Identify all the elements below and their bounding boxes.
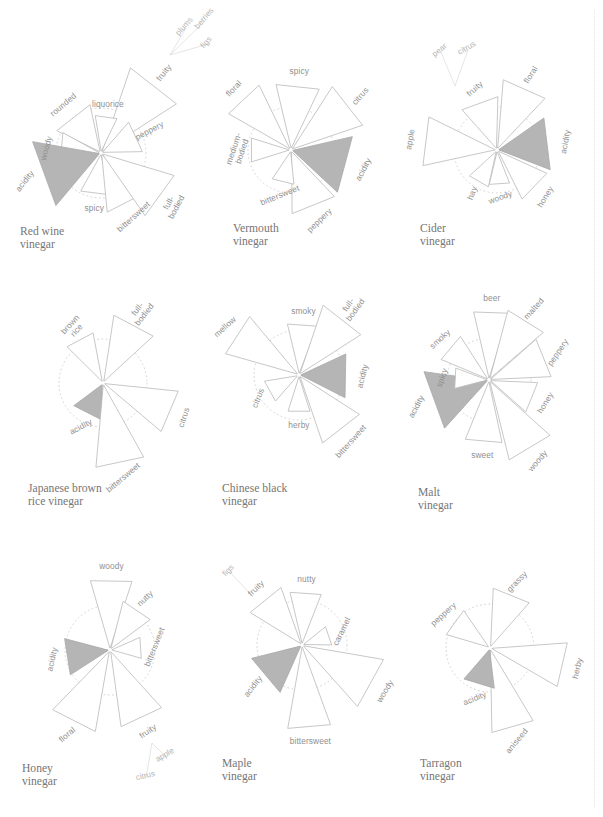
chart-panel-vermouth-vinegar: spicycitrusaciditypepperybittersweetmedi… [201,0,402,272]
petal-label: bittersweet [142,625,167,668]
figure-sheet: fruitypepperyliquoriceroundedwoodyacidit… [0,0,603,817]
petal-label: acidity [406,393,427,420]
chart-title: Malt vinegar [418,486,453,513]
petal-peppery [446,611,488,647]
sub-label-leader [441,52,455,86]
petal-acidity [464,650,494,688]
petal-label: acidity [353,156,374,183]
petal-label: citrus [176,406,192,429]
chart-title: Vermouth vinegar [233,222,279,249]
petal-acidity [74,385,102,420]
petal-label: spicy [85,203,105,213]
petal-label: rounded [48,90,79,118]
petal-fruity [111,652,162,727]
chart-panel-japanese-brown-rice-vinegar: full-bodiedbrownriceaciditybittersweetci… [0,272,201,544]
chart-panel-honey-vinegar: woodynuttybittersweetfruityfloralacidity… [0,544,201,817]
petal-caramel [304,627,332,645]
petal-label: fruity [154,62,174,83]
petal-label: caramel [330,616,352,648]
petal-label: woody [374,677,396,705]
petal-label: honey [535,183,556,209]
petal-label: peppery [305,205,335,234]
chart-panel-red-wine-vinegar: fruitypepperyliquoriceroundedwoodyacidit… [0,0,201,272]
petal-label: acidity [44,646,59,673]
chart-title: Maple vinegar [222,757,257,784]
petal-label: acidity [13,168,36,194]
petal-label: citrus [349,85,370,107]
petal-label: hay [465,184,480,201]
petal-label: full-bodied [337,291,367,323]
petal-label: citrus [249,386,266,409]
petal-label: fruity [464,78,485,98]
chart-panel-maple-vinegar: nuttycaramelwoodybittersweetacidityfruit… [201,544,402,817]
petal-label: woody [525,448,550,475]
petal-label: grassy [505,568,530,593]
petal-label: nutty [135,588,156,609]
petal-label: malted [521,295,546,321]
petal-label: mellow [212,314,239,340]
petal-label: floral [521,64,539,85]
petal-label: herby [570,656,585,680]
petal-label: woody [98,561,124,571]
petal-label: floral [223,78,243,98]
chart-panel-tarragon-vinegar: grassyherbyaniseedaciditypepperyTarragon… [402,544,603,817]
panel-grid: fruitypepperyliquoriceroundedwoodyacidit… [0,0,603,817]
petal-label: fruity [137,721,159,740]
petal-label: full-bodied [125,296,156,328]
petal-label: liquorice [92,99,124,109]
petal-label: peppery [545,336,571,368]
petal-label: herby [288,420,310,430]
petal-chart-vermouth-vinegar: spicycitrusaciditypepperybittersweetmedi… [201,0,402,272]
petal-label: brownrice [58,312,88,342]
petal-label: apple [403,128,417,151]
petal-label: acidity [462,689,489,708]
petal-label: acidity [558,128,572,154]
petal-label: woody [486,188,514,206]
petal-label: acidity [68,416,95,437]
petal-label: full-bodied [158,189,187,221]
petal-label: beer [483,293,500,303]
sub-label: pear [430,41,448,59]
petal-label: aniseed [503,726,530,755]
petal-label: smoky [291,306,316,316]
chart-panel-cider-vinegar: floralacidityhoneywoodyhayapplefruitypea… [402,0,603,272]
petal-brown-rice [67,333,102,381]
chart-title: Chinese black vinegar [222,482,287,509]
petal-label: acidity [241,673,264,699]
petal-label: fruity [246,577,267,598]
chart-title: Tarragon vinegar [420,757,462,784]
petal-label: smoky [427,326,452,350]
petal-label: floral [57,725,78,745]
petal-label: acidity [354,362,370,389]
chart-title: Japanese brown rice vinegar [28,482,102,509]
petal-mellow [226,317,298,374]
petal-label: medium-bodied [223,131,251,168]
chart-panel-malt-vinegar: beermaltedpepperyhoneywoodysweetaciditys… [402,272,603,544]
petal-label: sweet [471,450,494,460]
sub-label: citrus [135,769,156,782]
petal-bittersweet [272,152,294,184]
petal-label: bittersweet [104,460,142,495]
chart-panel-chinese-black-vinegar: smokyfull-bodiedaciditybittersweetherbyc… [201,272,402,544]
petal-label: spicy [290,66,310,76]
petal-label: bittersweet [290,736,332,746]
petal-label: honey [535,390,556,416]
chart-title: Cider vinegar [420,222,455,249]
chart-title: Honey vinegar [22,762,57,789]
petal-label: nutty [297,574,316,584]
petal-grassy [491,588,530,646]
chart-title: Red wine vinegar [20,225,64,252]
